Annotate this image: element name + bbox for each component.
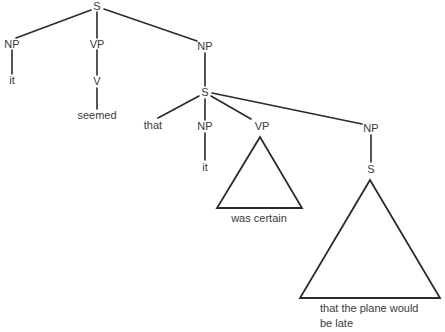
node-it1: it: [9, 74, 15, 86]
tree-labels: S NP it VP V seemed NP S that NP it VP w…: [4, 0, 418, 329]
syntax-tree-diagram: S NP it VP V seemed NP S that NP it VP w…: [0, 0, 445, 332]
triangle-s2: [300, 180, 440, 298]
node-that: that: [144, 119, 162, 131]
triangle-s2-yield-line2: be late: [320, 317, 353, 329]
triangle-s2-yield-line1: that the plane would: [320, 302, 418, 314]
node-np3: NP: [197, 120, 212, 132]
triangle-vp2: [217, 137, 302, 208]
node-it2: it: [202, 161, 208, 173]
node-np2: NP: [197, 40, 212, 52]
node-np1: NP: [4, 38, 19, 50]
triangle-vp2-yield: was certain: [230, 212, 287, 224]
edge-s1-np4: [212, 93, 362, 124]
edge-s1-that: [158, 96, 199, 118]
node-seemed: seemed: [77, 109, 116, 121]
node-vp1: VP: [90, 38, 105, 50]
edge-s0-np2: [104, 9, 197, 41]
node-s1: S: [201, 86, 208, 98]
edge-s0-np1: [16, 10, 91, 38]
node-v1: V: [93, 75, 101, 87]
node-s0: S: [93, 0, 100, 12]
node-s2: S: [367, 163, 374, 175]
node-vp2: VP: [255, 120, 270, 132]
node-np4: NP: [363, 122, 378, 134]
tree-edges: [12, 9, 371, 162]
